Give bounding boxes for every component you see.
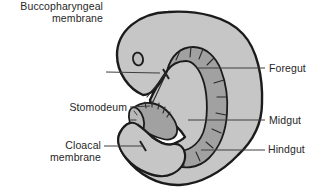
label-cloacal-line2: membrane	[0, 151, 101, 163]
label-hindgut: Hindgut	[268, 143, 305, 155]
label-cloacal-line1: Cloacal	[0, 139, 101, 151]
embryo-gut-diagram: Buccopharyngeal membrane Stomodeum Cloac…	[0, 0, 323, 195]
embryo-illustration	[0, 0, 323, 195]
label-midgut: Midgut	[269, 114, 301, 126]
label-buccopharyngeal-line2: membrane	[0, 12, 103, 24]
label-buccopharyngeal-line1: Buccopharyngeal	[0, 0, 103, 12]
label-buccopharyngeal-membrane: Buccopharyngeal membrane	[0, 0, 103, 24]
label-cloacal-membrane: Cloacal membrane	[0, 139, 101, 163]
label-stomodeum: Stomodeum	[20, 101, 127, 113]
label-foregut: Foregut	[269, 62, 306, 74]
